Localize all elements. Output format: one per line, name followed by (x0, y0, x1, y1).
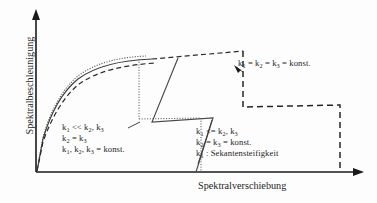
capacity-curve-dashed-extension (152, 51, 243, 59)
annotation-topright: k1 = k2 = k3 = konst. (238, 58, 311, 69)
annotation-right-line-2: k2 = k3 = konst. (196, 137, 278, 148)
annotation-left-line-3: k1, k2, k3 = konst. (62, 144, 125, 155)
annotation-right-line-3: k1 : Sekantensteifigkeit (196, 148, 278, 159)
y-axis-title: Spektralbeschleunigung (24, 11, 35, 161)
leader-line-left (128, 122, 140, 128)
annotation-right: k1 <= k2, k3 k2 = k3 = konst. k1 : Sekan… (196, 126, 278, 160)
annotation-right-line-1: k1 <= k2, k3 (196, 126, 278, 137)
annotation-left-line-1: k1 << k2, k3 (62, 122, 125, 133)
spectral-capacity-diagram: Spektralbeschleunigung Spektralverschieb… (0, 0, 377, 203)
annotation-left-line-2: k2 = k3 (62, 133, 125, 144)
annotation-topright-line-1: k1 = k2 = k3 = konst. (238, 58, 311, 69)
right-arrow-icon (353, 168, 364, 176)
plot-canvas (0, 0, 377, 203)
annotation-left: k1 << k2, k3 k2 = k3 k1, k2, k3 = konst. (62, 122, 125, 156)
x-axis-title: Spektralverschiebung (198, 180, 286, 191)
